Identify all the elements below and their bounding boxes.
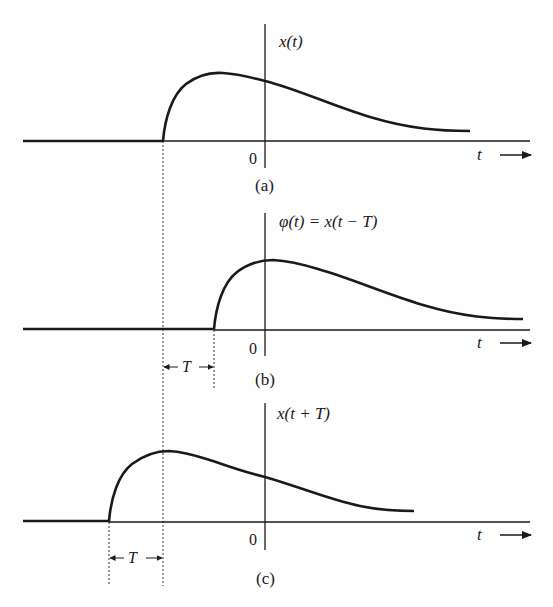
guide-lines — [109, 141, 214, 586]
panel-b-plot — [23, 213, 531, 367]
panel-b-t-label: t — [477, 334, 482, 351]
panel-a-plot — [23, 24, 531, 168]
panel-c-caption: (c) — [256, 570, 275, 587]
panel-a-t-label: t — [477, 146, 482, 163]
time-shift-figure: x(t) 0 t (a) φ(t) = x(t − T) 0 t T (b) x… — [0, 0, 553, 607]
panel-a-caption: (a) — [255, 177, 274, 194]
figure-graphics — [0, 0, 553, 607]
panel-c-signal-curve — [23, 451, 414, 521]
panel-b-signal-curve — [23, 260, 523, 329]
panel-a-signal-label: x(t) — [279, 33, 303, 50]
panel-b-shift-label: T — [182, 359, 191, 375]
panel-a-origin-label: 0 — [249, 151, 257, 167]
panel-b-caption: (b) — [255, 371, 275, 388]
panel-c-signal-label: x(t + T) — [277, 405, 330, 422]
panel-b-signal-label: φ(t) = x(t − T) — [279, 213, 377, 230]
panel-c-origin-label: 0 — [249, 532, 257, 548]
panel-a-signal-curve — [23, 73, 470, 141]
panel-c-shift-label: T — [128, 550, 137, 566]
panel-c-plot — [23, 403, 531, 558]
panel-c-t-label: t — [477, 526, 482, 543]
panel-b-origin-label: 0 — [249, 341, 257, 357]
